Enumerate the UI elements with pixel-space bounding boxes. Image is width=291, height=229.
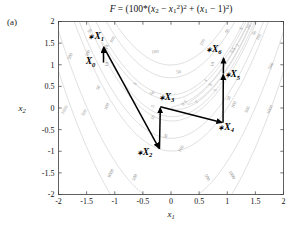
point-label-X2: ∗X2 [137,147,153,159]
contour-label: 10 [149,90,156,97]
y-axis-label: x2 [17,103,26,114]
path-arrow [104,47,159,148]
contour-label: 50 [95,84,102,91]
contour-label: 100 [177,144,185,153]
contour-labels-group: 5001001000500505010010010101005051051050… [60,23,275,182]
contour-label: 50 [176,69,182,75]
x-tick-label: -0.5 [137,197,150,206]
contour-label: 100 [103,102,111,111]
x-tick-label: 1.5 [250,197,260,206]
y-tick-label: 1 [51,61,55,70]
contour-label: 500 [80,108,88,117]
contour-label: 500 [267,61,275,70]
contour-level-500 [59,31,284,195]
contour-label: 10 [149,114,156,121]
contour-label: 100 [230,100,238,109]
plot-area: 5001001000500505010010010101005051051050… [0,0,291,229]
contour-label: 1000 [265,104,274,115]
contour-label: 1000 [60,104,69,115]
point-labels-group: X0∗X1∗X2∗X3∗X4∗X5∗X6 [85,31,241,159]
y-tick-label: -2 [48,190,55,199]
x-tick-label: -1.5 [80,197,93,206]
x-tick-label: 0.5 [194,197,204,206]
contour-label: 500 [203,173,211,182]
contour-label: 1000 [106,168,115,179]
contour-label: 50 [162,132,169,139]
contour-plot-svg: 5001001000500505010010010101005051051050… [0,0,291,229]
point-label-X6: ∗X6 [206,44,222,56]
contour-label: 1000 [228,170,237,181]
path-arrow [159,108,160,149]
point-label-X5: ∗X5 [225,69,241,81]
contour-label: 500 [243,105,251,114]
contour-label: 10 [209,61,216,68]
contour-label: 100 [108,35,116,44]
point-label-X0: X0 [85,56,96,68]
contour-label: 50 [224,27,231,34]
x-tick-label: -1 [111,197,118,206]
point-label-X3: ∗X3 [159,92,175,104]
y-tick-label: 0.5 [45,82,55,91]
y-tick-label: -1 [48,147,55,156]
point-label-X4: ∗X4 [218,122,234,134]
x-tick-label: 0 [169,197,173,206]
y-tick-label: 0 [51,104,55,113]
axis-titles-group: x1x2 [17,103,174,220]
x-axis-label: x1 [166,209,174,220]
contour-label: 100 [151,49,159,55]
contour-label: 500 [131,173,139,182]
x-tick-label: 1 [225,197,229,206]
figure-root: (a) F = (100*(x2 − x12)2 + (x1 − 1)2) 50… [0,0,291,229]
contour-label: 5 [150,103,156,108]
x-tick-label: -2 [55,197,62,206]
y-tick-label: -0.5 [42,126,55,135]
y-tick-label: -1.5 [42,169,55,178]
contour-label: 0.5 [180,99,188,107]
contour-level-1000 [59,71,284,194]
y-tick-label: 1.5 [45,39,55,48]
contour-label: 500 [66,51,74,60]
y-tick-label: 2 [51,17,55,26]
contour-label: 50 [225,94,232,101]
x-tick-label: 2 [282,197,286,206]
contour-level-0.5 [188,22,252,105]
